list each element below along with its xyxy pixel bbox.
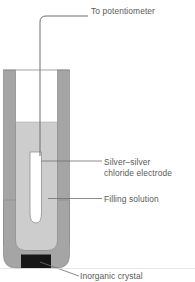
label-to-potentiometer: To potentiometer <box>91 6 155 17</box>
inorganic-crystal <box>21 255 51 269</box>
figure-canvas: To potentiometer Silver–silver chloride … <box>0 0 195 282</box>
ion-selective-electrode-diagram <box>0 0 195 282</box>
silver-silver-chloride-electrode <box>30 152 42 223</box>
label-electrode-line-2: chloride electrode <box>104 168 172 179</box>
label-silver-silver-chloride-electrode: Silver–silver chloride electrode <box>104 157 172 178</box>
label-filling-solution: Filling solution <box>104 194 159 205</box>
label-inorganic-crystal: Inorganic crystal <box>80 271 143 282</box>
label-electrode-line-1: Silver–silver <box>104 157 172 168</box>
electrode-body-interior <box>16 70 58 122</box>
